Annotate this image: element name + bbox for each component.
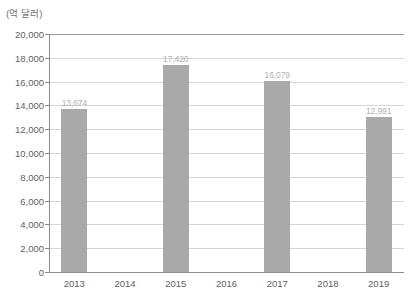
- y-tick-label: 6,000: [2, 195, 44, 206]
- bar-value-label: 12,991: [366, 106, 391, 116]
- y-tick-label: 2,000: [2, 243, 44, 254]
- y-tick-label: 0: [2, 267, 44, 278]
- gridline: [49, 272, 404, 273]
- y-tick-label: 14,000: [2, 100, 44, 111]
- y-tick-mark: [45, 153, 49, 154]
- y-tick-mark: [45, 58, 49, 59]
- x-tick-label: 2016: [216, 278, 237, 289]
- bar-value-label: 13,674: [62, 98, 87, 108]
- y-tick-mark: [45, 129, 49, 130]
- x-tick-label: 2014: [114, 278, 135, 289]
- x-tick-label: 2015: [165, 278, 186, 289]
- y-tick-label: 12,000: [2, 124, 44, 135]
- bar-value-label: 17,420: [163, 54, 188, 64]
- x-tick-label: 2013: [64, 278, 85, 289]
- x-axis-tick-labels: 2013201420152016201720182019: [49, 278, 404, 298]
- y-tick-mark: [45, 34, 49, 35]
- y-tick-mark: [45, 272, 49, 273]
- bar: [366, 117, 392, 272]
- bar: [264, 81, 290, 272]
- x-tick-label: 2019: [368, 278, 389, 289]
- y-tick-label: 8,000: [2, 171, 44, 182]
- y-tick-label: 20,000: [2, 29, 44, 40]
- x-tick-label: 2017: [267, 278, 288, 289]
- bar: [163, 65, 189, 272]
- y-tick-mark: [45, 248, 49, 249]
- y-tick-label: 4,000: [2, 219, 44, 230]
- y-tick-mark: [45, 201, 49, 202]
- y-tick-label: 16,000: [2, 76, 44, 87]
- y-tick-label: 18,000: [2, 52, 44, 63]
- y-axis-tick-labels: 20,00018,00016,00014,00012,00010,0008,00…: [0, 0, 44, 301]
- bar-chart: (억 달러) 20,00018,00016,00014,00012,00010,…: [0, 0, 411, 301]
- y-tick-mark: [45, 177, 49, 178]
- y-tick-mark: [45, 105, 49, 106]
- bars-layer: 13,67417,42016,07912,991: [49, 34, 404, 272]
- y-tick-label: 10,000: [2, 148, 44, 159]
- x-tick-label: 2018: [317, 278, 338, 289]
- y-tick-mark: [45, 224, 49, 225]
- bar-value-label: 16,079: [265, 70, 290, 80]
- y-tick-mark: [45, 82, 49, 83]
- bar: [61, 109, 87, 272]
